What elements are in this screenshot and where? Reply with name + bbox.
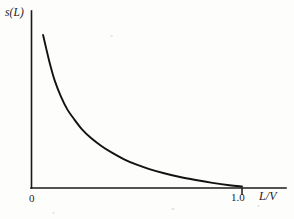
scan-speck — [52, 212, 55, 214]
figure-container: s(L) L/V 0 1.0 — [0, 0, 294, 219]
plot-canvas — [0, 0, 294, 219]
y-axis-label: s(L) — [5, 7, 24, 19]
data-curve — [43, 35, 242, 187]
x-tick-label-one: 1.0 — [231, 192, 245, 203]
scan-speck — [171, 208, 175, 210]
x-tick-label-origin: 0 — [29, 193, 35, 204]
scan-speck — [110, 35, 113, 37]
x-axis-label: L/V — [259, 190, 277, 202]
scan-speck — [257, 205, 260, 207]
